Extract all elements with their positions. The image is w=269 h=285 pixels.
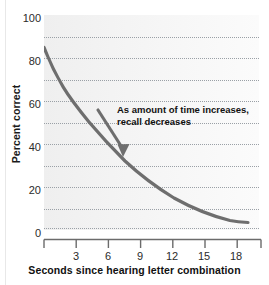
chart-annotation: As amount of time increases, recall decr…: [117, 104, 267, 128]
x-tick-label-18: 18: [224, 250, 248, 262]
page-edge-line: [5, 0, 6, 285]
y-tick-label-60: 60: [11, 99, 41, 110]
x-tick-label-3: 3: [64, 250, 88, 262]
y-tick-label-20: 20: [11, 185, 41, 196]
y-tick-label-80: 80: [11, 56, 41, 67]
chart-figure: Percent correct 100 80 60 40 20 0 As amo…: [0, 0, 269, 285]
annotation-line-2: recall decreases: [117, 116, 267, 128]
x-axis-title: Seconds since hearing letter combination: [0, 264, 269, 276]
annotation-line-1: As amount of time increases,: [117, 104, 267, 116]
x-axis: [40, 238, 265, 250]
y-tick-label-40: 40: [11, 142, 41, 153]
x-tick-label-12: 12: [160, 250, 184, 262]
x-tick-label-9: 9: [128, 250, 152, 262]
x-tick-label-6: 6: [96, 250, 120, 262]
y-axis-title: Percent correct: [10, 64, 22, 184]
x-tick-label-15: 15: [192, 250, 216, 262]
y-tick-label-0: 0: [11, 228, 41, 239]
y-tick-label-100: 100: [11, 13, 41, 24]
